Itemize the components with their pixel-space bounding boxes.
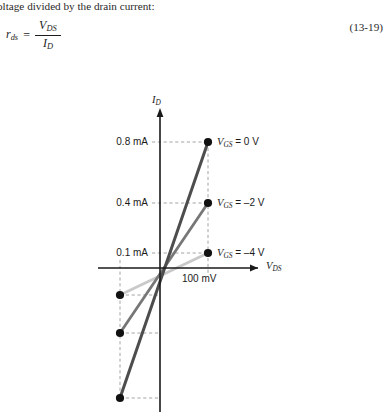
equation-denominator: ID bbox=[40, 36, 56, 52]
curve-label-vgs-0-value: = 0 V bbox=[232, 136, 258, 147]
curve-label-vgs-minus4: VGS = –4 V bbox=[217, 247, 264, 260]
x-tick-label-100mV: 100 mV bbox=[182, 273, 232, 284]
equation-13-19: rds = VDS ID bbox=[6, 18, 61, 52]
y-tick-label-0p4mA: 0.4 mA bbox=[88, 197, 148, 208]
equation-number: (13-19) bbox=[349, 21, 383, 33]
x-axis-label-subscript: DS bbox=[272, 264, 281, 273]
chart-canvas bbox=[0, 60, 386, 412]
datapoint-vgs-minus4-negative bbox=[116, 291, 124, 299]
curve-label-vgs-minus2: VGS = –2 V bbox=[217, 197, 264, 210]
curve-vgs-0 bbox=[120, 142, 208, 398]
datapoint-vgs-minus2-positive bbox=[204, 199, 212, 207]
x-axis-label: VDS bbox=[266, 260, 281, 273]
equation-equals-sign: = bbox=[23, 28, 30, 43]
intro-paragraph: oltage divided by the drain current: bbox=[0, 0, 297, 13]
equation-fraction: VDS ID bbox=[35, 19, 61, 52]
equation-lhs: rds bbox=[6, 27, 18, 42]
axes bbox=[98, 108, 258, 412]
equation-numerator: VDS bbox=[36, 19, 60, 35]
datapoint-vgs0-negative bbox=[116, 394, 124, 402]
equation-numerator-subscript: DS bbox=[46, 24, 56, 33]
y-axis-arrowhead bbox=[157, 108, 164, 117]
curve-label-vgs-0: VGS = 0 V bbox=[217, 136, 259, 149]
y-tick-label-0p8mA: 0.8 mA bbox=[88, 136, 148, 147]
curve-label-vgs-minus2-value: = –2 V bbox=[232, 197, 264, 208]
equation-denominator-subscript: D bbox=[47, 42, 53, 51]
y-axis-label: ID bbox=[152, 94, 161, 107]
y-tick-label-0p1mA: 0.1 mA bbox=[88, 247, 148, 258]
jfet-drain-characteristic-chart: ID VDS 0.8 mA 0.4 mA 0.1 mA 100 mV VGS =… bbox=[0, 60, 386, 412]
datapoint-vgs-minus2-negative bbox=[116, 329, 124, 337]
equation-lhs-subscript: ds bbox=[11, 34, 18, 43]
datapoint-vgs-minus4-positive bbox=[204, 249, 212, 257]
y-axis-label-subscript: D bbox=[156, 98, 161, 107]
x-axis-arrowhead bbox=[250, 265, 258, 272]
curve-label-vgs-minus4-value: = –4 V bbox=[232, 247, 264, 258]
datapoint-vgs0-positive bbox=[204, 138, 212, 146]
